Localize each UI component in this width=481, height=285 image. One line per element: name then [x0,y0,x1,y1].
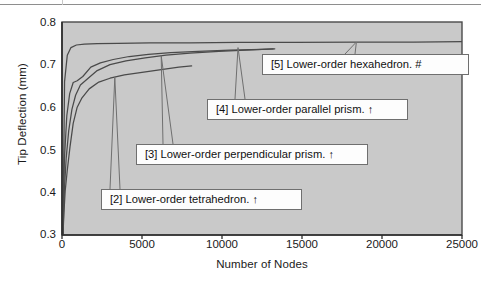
figure-container: Tip Deflection (mm) Number of Nodes 0.8 … [0,0,481,285]
callout-label-perpendicular-prism: [3] Lower-order perpendicular prism. ↑ [136,144,368,165]
x-tick-label-10000: 10000 [187,238,257,250]
x-tick-label-20000: 20000 [347,238,417,250]
y-tick-label-0.8: 0.8 [22,16,56,28]
x-tick-label-25000: 25000 [427,238,481,250]
callout-label-tetrahedron: [2] Lower-order tetrahedron. ↑ [101,189,302,210]
y-tick-label-0.7: 0.7 [22,58,56,70]
callout-label-parallel-prism: [4] Lower-order parallel prism. ↑ [207,99,408,120]
x-tick-label-0: 0 [27,238,97,250]
y-tick-label-0.6: 0.6 [22,101,56,113]
y-tick-label-0.5: 0.5 [22,144,56,156]
x-axis-label: Number of Nodes [62,258,462,270]
x-tick-label-5000: 5000 [107,238,177,250]
y-tick-label-0.4: 0.4 [22,186,56,198]
callout-label-hexahedron: [5] Lower-order hexahedron. # [262,54,469,75]
x-tick-label-15000: 15000 [267,238,337,250]
